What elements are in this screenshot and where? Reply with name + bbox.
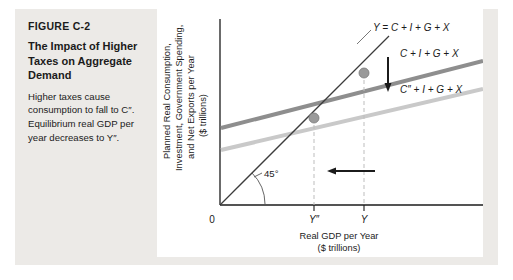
figure-page: FIGURE C-2 The Impact of Higher Taxes on… xyxy=(0,0,513,280)
forty-five-degree-label-leader xyxy=(357,30,371,44)
forty-five-degree-label: 45° xyxy=(264,168,279,179)
original-expenditure-line-label: C + I + G + X xyxy=(400,48,459,59)
y-axis-title-line-4: ($ trillions) xyxy=(198,94,208,137)
y-axis-title-line-1: Planned Real Consumption, xyxy=(162,43,172,159)
y-axis-title-line-2: Investment, Government Spending, xyxy=(174,25,184,171)
figure-title: The Impact of Higher Taxes on Aggregate … xyxy=(28,39,150,83)
figure-caption: FIGURE C-2 The Impact of Higher Taxes on… xyxy=(28,20,150,144)
x-tick-label-y: Y xyxy=(361,214,369,225)
forty-five-degree-line-label: Y = C + I + G + X xyxy=(373,22,450,33)
y-axis-title-line-3: and Net Exports per Year xyxy=(186,55,196,159)
figure-description: Higher taxes cause consumption to fall t… xyxy=(28,90,150,144)
aggregate-demand-chart: 45° Y = C + I + G + X C + I + G + X C″ +… xyxy=(157,9,483,257)
x-axis-title-line-2: ($ trillions) xyxy=(318,243,361,253)
original-equilibrium-point xyxy=(359,68,369,78)
shift-arrow-horizontal-head xyxy=(327,168,336,175)
x-axis-title-line-1: Real GDP per Year xyxy=(300,231,379,241)
new-equilibrium-point xyxy=(309,113,319,123)
figure-number: FIGURE C-2 xyxy=(28,20,150,32)
origin-label: 0 xyxy=(209,214,215,225)
x-tick-label-y-double-prime: Y″ xyxy=(309,214,320,225)
forty-five-degree-leader xyxy=(254,173,262,177)
new-expenditure-line-label: C″ + I + G + X xyxy=(400,84,463,95)
